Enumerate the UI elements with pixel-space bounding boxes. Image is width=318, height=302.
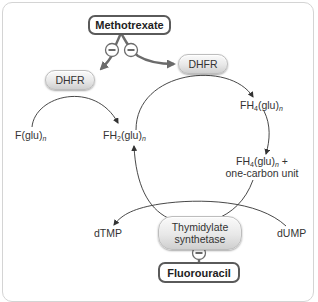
folate-label: F(glu)n bbox=[15, 129, 46, 141]
tetrahydrofolate-one-carbon-label: FH4(glu)n + one-carbon unit bbox=[224, 155, 300, 179]
methotrexate-inhibition-arrows bbox=[101, 33, 174, 69]
dhfr-right-label: DHFR bbox=[188, 58, 217, 70]
fluorouracil-label: Fluorouracil bbox=[167, 267, 231, 279]
methotrexate-label: Methotrexate bbox=[95, 19, 163, 31]
dtmp-label: dTMP bbox=[94, 227, 122, 239]
methotrexate-box: Methotrexate bbox=[88, 15, 171, 35]
dhfr-left-pill: DHFR bbox=[45, 70, 95, 90]
folate-to-dihydrofolate-arrow bbox=[32, 96, 118, 127]
thymidylate-synthetase-label-line1: Thymidylate bbox=[172, 221, 229, 233]
thymidylate-synthetase-label-line2: synthetase bbox=[175, 233, 226, 245]
dump-label: dUMP bbox=[277, 227, 306, 239]
thymidylate-synthetase-pill: Thymidylate synthetase bbox=[158, 216, 242, 250]
dhfr-right-pill: DHFR bbox=[178, 54, 228, 74]
dhfr-left-label: DHFR bbox=[55, 74, 84, 86]
dihydrofolate-label: FH2(glu)n bbox=[103, 129, 146, 141]
fluorouracil-box: Fluorouracil bbox=[158, 262, 240, 283]
tetrahydrofolate-label: FH4(glu)n bbox=[240, 99, 283, 111]
